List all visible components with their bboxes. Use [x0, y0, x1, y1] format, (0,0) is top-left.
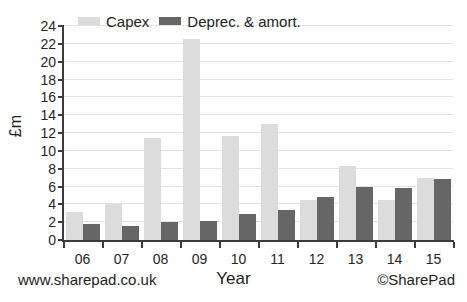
- y-axis-tick: 12: [40, 126, 63, 140]
- x-axis-tick-mark: [63, 242, 65, 248]
- x-axis-label-07: 07: [102, 249, 141, 269]
- x-axis-label-12: 12: [297, 249, 336, 269]
- x-axis-label-15: 15: [414, 249, 453, 269]
- y-axis-tick-label: 10: [40, 144, 56, 158]
- x-axis-tick-mark: [453, 242, 455, 248]
- bars-layer: [63, 26, 453, 240]
- y-axis-tick: 20: [40, 55, 63, 69]
- x-axis-tick-mark: [258, 242, 260, 248]
- bar[interactable]: [261, 124, 278, 240]
- y-axis-tick-label: 12: [40, 126, 56, 140]
- x-axis-tick-mark: [141, 242, 143, 248]
- bar[interactable]: [239, 214, 256, 240]
- y-axis-tick: 18: [40, 73, 63, 87]
- y-axis-tick-label: 22: [40, 37, 56, 51]
- y-axis-tick: 8: [48, 162, 63, 176]
- bar-group-15: [414, 26, 453, 240]
- bar-group-08: [141, 26, 180, 240]
- bar-group-10: [219, 26, 258, 240]
- y-axis-tick: 24: [40, 19, 63, 33]
- legend-swatch-deprec-amort: [159, 17, 181, 25]
- bar[interactable]: [105, 204, 122, 240]
- bar[interactable]: [222, 136, 239, 240]
- legend-entry-deprec-amort[interactable]: Deprec. & amort.: [159, 14, 300, 29]
- y-axis-tick-label: 0: [48, 233, 56, 247]
- footer-copyright: ©SharePad: [377, 272, 455, 287]
- y-axis-tick-label: 16: [40, 90, 56, 104]
- x-axis-label-10: 10: [219, 249, 258, 269]
- x-axis-label-06: 06: [63, 249, 102, 269]
- bar-group-12: [297, 26, 336, 240]
- y-axis-tick: 4: [48, 197, 63, 211]
- bar[interactable]: [66, 212, 83, 240]
- bar[interactable]: [434, 179, 451, 240]
- legend-label-capex: Capex: [106, 14, 149, 29]
- bar[interactable]: [356, 187, 373, 241]
- plot-area: [63, 26, 453, 240]
- bar-group-07: [102, 26, 141, 240]
- y-axis-line: [62, 25, 64, 241]
- y-axis-tick-label: 24: [40, 19, 56, 33]
- bar[interactable]: [122, 226, 139, 240]
- legend-label-deprec-amort: Deprec. & amort.: [187, 14, 300, 29]
- x-axis-tick-mark: [219, 242, 221, 248]
- bar[interactable]: [83, 224, 100, 240]
- bar-group-13: [336, 26, 375, 240]
- bar-group-09: [180, 26, 219, 240]
- x-axis-label-09: 09: [180, 249, 219, 269]
- x-axis-tick-mark: [180, 242, 182, 248]
- bar-group-11: [258, 26, 297, 240]
- chart-legend: Capex Deprec. & amort.: [78, 12, 301, 30]
- bar[interactable]: [144, 138, 161, 240]
- y-axis-tick: 16: [40, 90, 63, 104]
- bar-group-06: [63, 26, 102, 240]
- bar[interactable]: [395, 188, 412, 240]
- bar[interactable]: [378, 200, 395, 240]
- x-axis-tick-mark: [414, 242, 416, 248]
- x-axis-tick-mark: [102, 242, 104, 248]
- y-axis-tick-label: 14: [40, 108, 56, 122]
- bar[interactable]: [161, 222, 178, 240]
- legend-entry-capex[interactable]: Capex: [78, 14, 149, 29]
- bar[interactable]: [339, 166, 356, 240]
- x-axis-ticks: [63, 242, 453, 248]
- x-axis-label-13: 13: [336, 249, 375, 269]
- y-axis-tick: 14: [40, 108, 63, 122]
- y-axis-tick: 6: [48, 180, 63, 194]
- bar[interactable]: [200, 221, 217, 240]
- x-axis-tick-mark: [336, 242, 338, 248]
- bar[interactable]: [300, 200, 317, 240]
- bar[interactable]: [417, 178, 434, 240]
- y-axis-tick-label: 4: [48, 197, 56, 211]
- x-axis-label-11: 11: [258, 249, 297, 269]
- chart-container: Capex Deprec. & amort. 02468101214161820…: [0, 0, 467, 302]
- y-axis-tick: 0: [48, 233, 63, 247]
- x-axis-label-14: 14: [375, 249, 414, 269]
- x-axis-labels: 06070809101112131415: [63, 249, 453, 269]
- y-axis-tick-label: 18: [40, 73, 56, 87]
- y-axis-tick-label: 20: [40, 55, 56, 69]
- bar-group-14: [375, 26, 414, 240]
- y-axis-tick-label: 8: [48, 162, 56, 176]
- legend-swatch-capex: [78, 17, 100, 25]
- y-axis-tick-label: 2: [48, 215, 56, 229]
- y-axis-tick: 22: [40, 37, 63, 51]
- bar[interactable]: [183, 39, 200, 240]
- y-axis-tick: 2: [48, 215, 63, 229]
- y-axis-tick-label: 6: [48, 180, 56, 194]
- y-axis-tick: 10: [40, 144, 63, 158]
- x-axis-tick-mark: [297, 242, 299, 248]
- bar[interactable]: [317, 197, 334, 240]
- bar[interactable]: [278, 210, 295, 240]
- x-axis-label-08: 08: [141, 249, 180, 269]
- y-axis-ticks: 024681012141618202224: [0, 0, 63, 302]
- x-axis-tick-mark: [375, 242, 377, 248]
